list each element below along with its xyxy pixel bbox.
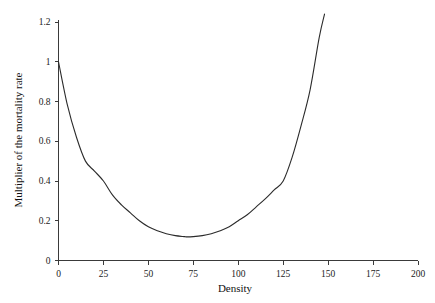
y-axis-title: Multiplier of the mortality rate bbox=[12, 72, 24, 207]
y-tick-label: 0 bbox=[46, 256, 51, 266]
y-tick-label: 0.6 bbox=[39, 136, 51, 146]
y-axis-ticks: 00.20.40.60.811.2 bbox=[39, 17, 59, 266]
x-tick-label: 0 bbox=[56, 269, 61, 279]
x-tick-label: 50 bbox=[144, 269, 154, 279]
x-tick-label: 75 bbox=[189, 269, 199, 279]
data-curve bbox=[59, 14, 325, 237]
x-axis-ticks: 0255075100125150175200 bbox=[56, 261, 425, 279]
y-tick-label: 1 bbox=[46, 57, 51, 67]
data-series-group bbox=[59, 14, 325, 237]
x-tick-label: 125 bbox=[276, 269, 291, 279]
x-tick-label: 200 bbox=[411, 269, 426, 279]
x-tick-label: 175 bbox=[366, 269, 381, 279]
x-tick-label: 25 bbox=[99, 269, 109, 279]
x-axis-title: Density bbox=[218, 282, 253, 294]
y-tick-label: 0.8 bbox=[39, 97, 51, 107]
chart-figure: 00.20.40.60.811.2 0255075100125150175200… bbox=[0, 0, 435, 303]
chart-canvas: 00.20.40.60.811.2 0255075100125150175200… bbox=[0, 0, 435, 303]
x-tick-label: 150 bbox=[321, 269, 336, 279]
y-tick-label: 1.2 bbox=[39, 17, 51, 27]
y-tick-label: 0.4 bbox=[39, 176, 51, 186]
x-tick-label: 100 bbox=[231, 269, 246, 279]
axes bbox=[59, 20, 419, 261]
y-tick-label: 0.2 bbox=[39, 216, 51, 226]
